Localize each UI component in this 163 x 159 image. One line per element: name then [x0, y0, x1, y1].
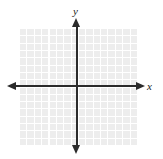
x-axis-label: x [147, 81, 152, 92]
y-axis-down-arrow-icon [72, 145, 80, 154]
y-axis-label: y [73, 6, 78, 17]
x-axis-right-arrow-icon [136, 82, 145, 90]
y-axis-up-arrow-icon [72, 18, 80, 27]
x-axis-left-arrow-icon [7, 82, 16, 90]
y-axis-line [76, 26, 78, 148]
coordinate-grid-figure: y x [0, 0, 163, 159]
